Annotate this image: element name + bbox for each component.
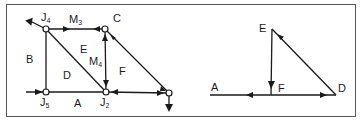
joint-j2 [103, 89, 109, 95]
label-text: E [80, 43, 87, 55]
arrow-icon [35, 89, 43, 95]
label-e: E [80, 44, 87, 55]
arrow-icon [320, 92, 327, 98]
fp-label-f: F [278, 83, 285, 94]
label-sub: 4 [47, 17, 51, 24]
joint-j4 [43, 26, 49, 32]
label-sub: 2 [106, 102, 110, 109]
arrow-icon [268, 81, 275, 89]
fp-label-a: A [211, 82, 218, 93]
label-text: A [74, 97, 81, 109]
label-sub: 4 [98, 61, 102, 68]
joint-c [102, 26, 108, 32]
label-j4: J4 [41, 12, 50, 26]
arrowheads [25, 18, 327, 112]
label-j5: J5 [40, 97, 49, 111]
label-text: C [113, 12, 121, 24]
label-sub: 3 [78, 19, 82, 26]
fp-label-d: D [338, 83, 346, 94]
label-sub: 5 [46, 102, 50, 109]
diagram-canvas: J4 M3 C B E M4 D F J5 A J2 E F A D [0, 0, 363, 127]
label-m3: M3 [69, 14, 82, 28]
arrow-icon [278, 34, 285, 41]
label-text: M [89, 55, 98, 67]
joint-j5 [43, 89, 49, 95]
arrow-icon [93, 26, 100, 32]
label-text: F [119, 65, 126, 77]
label-b: B [26, 54, 33, 65]
label-text: D [63, 69, 71, 81]
label-text: B [26, 53, 33, 65]
label-a: A [74, 98, 81, 109]
fp-label-e: E [259, 23, 266, 34]
arrow-icon [102, 34, 108, 41]
truss-diagram-svg [0, 0, 363, 127]
arrow-icon [165, 104, 173, 112]
arrow-icon [111, 89, 118, 95]
arrow-icon [103, 80, 109, 87]
label-c: C [113, 13, 121, 24]
joint-r [166, 90, 172, 96]
joints [43, 26, 172, 96]
label-m4: M4 [89, 56, 102, 70]
label-j2: J2 [100, 97, 109, 111]
label-f: F [119, 66, 126, 77]
label-text: E [259, 22, 266, 34]
label-text: F [278, 82, 285, 94]
arrow-icon [246, 92, 253, 98]
label-text: A [211, 81, 218, 93]
label-text: D [338, 82, 346, 94]
label-text: M [69, 13, 78, 25]
label-d: D [63, 70, 71, 81]
